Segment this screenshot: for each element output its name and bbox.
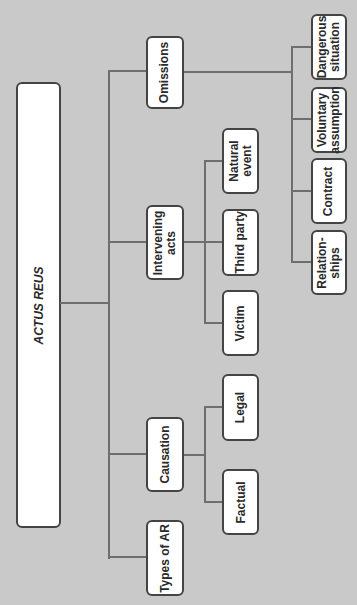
node-factual: Factual bbox=[222, 469, 259, 535]
connector-intervening-acts bbox=[108, 241, 148, 243]
main-trunk bbox=[108, 70, 110, 559]
node-omissions: Omissions bbox=[146, 36, 184, 109]
connector-contract bbox=[291, 190, 312, 192]
connector-types-of-ar bbox=[108, 556, 148, 558]
node-third-party: Third party bbox=[222, 209, 259, 276]
node-voluntary-assumption-label: Voluntary assumption bbox=[316, 86, 342, 153]
node-factual-label: Factual bbox=[234, 481, 247, 523]
connector-omissions bbox=[108, 70, 148, 72]
omissions-sub-trunk bbox=[291, 46, 293, 263]
node-legal-label: Legal bbox=[234, 392, 247, 423]
node-causation-label: Causation bbox=[159, 425, 172, 483]
node-contract: Contract bbox=[311, 158, 347, 224]
connector-victim bbox=[204, 322, 224, 324]
connector-dangerous-situation bbox=[291, 46, 312, 48]
connector-voluntary-assumption bbox=[291, 118, 312, 120]
node-contract-label: Contract bbox=[323, 166, 336, 215]
node-voluntary-assumption: Voluntary assumption bbox=[311, 87, 347, 153]
connector-causation-out bbox=[184, 454, 206, 456]
causation-sub-trunk bbox=[204, 406, 206, 503]
connector-relationships bbox=[291, 261, 312, 263]
node-natural-event-label: Natural event bbox=[228, 140, 254, 181]
node-dangerous-situation-label: Dangerous situation bbox=[316, 16, 342, 79]
connector-root-to-trunk bbox=[60, 302, 110, 304]
root-node-actus-reus: ACTUS REUS bbox=[16, 82, 61, 528]
node-causation: Causation bbox=[146, 417, 184, 492]
node-types-of-ar-label: Types of AR bbox=[159, 524, 172, 593]
connector-third-party bbox=[204, 241, 224, 243]
connector-intervening-out bbox=[184, 241, 206, 243]
node-omissions-label: Omissions bbox=[159, 42, 172, 103]
node-dangerous-situation: Dangerous situation bbox=[311, 14, 347, 80]
connector-legal bbox=[204, 406, 224, 408]
node-victim-label: Victim bbox=[234, 305, 247, 341]
node-types-of-ar: Types of AR bbox=[146, 520, 184, 596]
node-relationships: Relation- ships bbox=[311, 230, 347, 295]
connector-factual bbox=[204, 501, 224, 503]
connector-omissions-out bbox=[184, 71, 293, 73]
root-node-label: ACTUS REUS bbox=[32, 266, 45, 344]
node-legal: Legal bbox=[222, 374, 259, 441]
node-natural-event: Natural event bbox=[222, 128, 259, 194]
connector-natural-event bbox=[204, 160, 224, 162]
node-intervening-acts: Intervening acts bbox=[146, 205, 184, 280]
node-victim: Victim bbox=[222, 290, 259, 356]
node-third-party-label: Third party bbox=[234, 211, 247, 274]
node-relationships-label: Relation- ships bbox=[316, 237, 342, 288]
connector-causation bbox=[108, 453, 148, 455]
node-intervening-acts-label: Intervening acts bbox=[152, 210, 178, 275]
